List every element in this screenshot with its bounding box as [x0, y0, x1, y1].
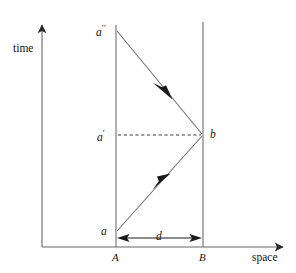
worldline-tick-label-b: B	[199, 252, 206, 263]
signal-outgoing-line	[117, 136, 202, 231]
space-axis-label: space	[252, 252, 278, 264]
signal-returning	[117, 31, 202, 134]
signal-outgoing	[117, 136, 202, 231]
event-label-a-prime-marks: ′	[103, 128, 105, 138]
signal-returning-line	[117, 31, 202, 134]
signal-outgoing-arrowhead	[153, 174, 171, 190]
time-axis-label: time	[13, 43, 33, 55]
event-label-a-double-prime-marks: ′′	[102, 23, 107, 33]
spacetime-diagram	[0, 0, 296, 273]
event-label-a: a	[101, 226, 107, 238]
distance-label-d: d	[156, 231, 162, 243]
event-label-a-prime: a′	[97, 129, 105, 143]
event-label-a-double-prime: a′′	[96, 24, 107, 38]
signal-returning-arrowhead	[153, 83, 173, 100]
event-label-b: b	[210, 129, 216, 141]
worldline-tick-label-a: A	[112, 252, 119, 263]
